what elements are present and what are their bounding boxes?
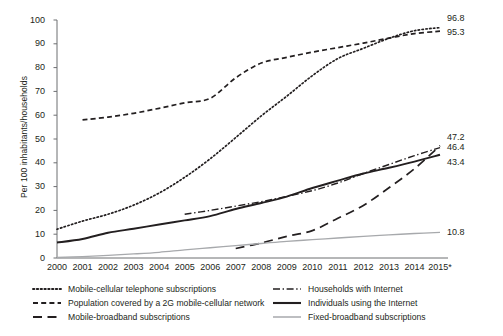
legend-line-swatch-dash-dot <box>272 284 302 294</box>
legend-line-swatch-long-dash <box>32 312 62 322</box>
legend-item[interactable]: Population covered by a 2G mobile-cellul… <box>32 296 264 309</box>
legend-line-swatch-solid-grey <box>272 312 302 322</box>
legend-column-left: Mobile-cellular telephone subscriptionsP… <box>32 282 264 324</box>
legend-item[interactable]: Mobile-cellular telephone subscriptions <box>32 282 264 295</box>
legend-item-label: Fixed-broadband subscriptions <box>308 312 426 322</box>
legend-item-label: Mobile-cellular telephone subscriptions <box>68 284 216 294</box>
legend-line-swatch-solid <box>272 298 302 308</box>
legend-item[interactable]: Mobile-broadband subscriptions <box>32 310 264 323</box>
series-end-label: 43.4 <box>447 158 465 167</box>
legend-item[interactable]: Fixed-broadband subscriptions <box>272 310 426 323</box>
legend-item-label: Individuals using the Internet <box>308 298 417 308</box>
series-end-label: 96.8 <box>447 14 465 23</box>
series-end-label: 10.8 <box>447 228 465 237</box>
series-end-label: 95.3 <box>447 28 465 37</box>
chart-legend: Mobile-cellular telephone subscriptionsP… <box>0 282 503 336</box>
legend-item-label: Mobile-broadband subscriptions <box>68 312 190 322</box>
legend-line-swatch-dotted <box>32 284 62 294</box>
legend-item-label: Households with Internet <box>308 284 403 294</box>
chart-container: Per 100 inhabitants/households 010203040… <box>0 0 503 336</box>
legend-item[interactable]: Individuals using the Internet <box>272 296 426 309</box>
legend-item[interactable]: Households with Internet <box>272 282 426 295</box>
legend-column-right: Households with InternetIndividuals usin… <box>272 282 426 324</box>
legend-line-swatch-dashed <box>32 298 62 308</box>
series-end-label: 47.2 <box>447 133 465 142</box>
series-end-label: 46.4 <box>447 143 465 152</box>
legend-item-label: Population covered by a 2G mobile-cellul… <box>68 298 264 308</box>
